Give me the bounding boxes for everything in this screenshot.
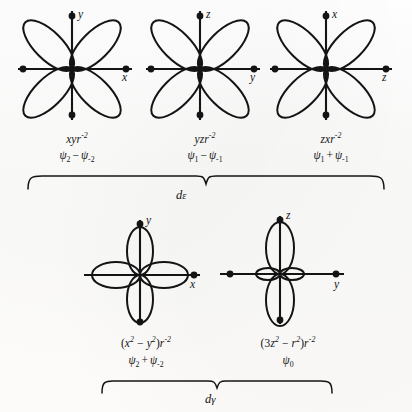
- axis-label-horizontal: x: [190, 278, 195, 290]
- formula-exponent: -2: [81, 131, 88, 140]
- axis-endpoint-dot: [277, 317, 284, 324]
- axis-label-vertical: y: [146, 214, 151, 226]
- psi-subscript: 0: [290, 360, 294, 369]
- axis-endpoint-dot: [272, 66, 279, 73]
- brace-label-de: dε: [176, 188, 186, 203]
- orbital-d-xy: y x: [14, 6, 142, 124]
- caption-psi-d-yz: ψ1−ψ-1: [150, 150, 260, 164]
- psi-right-subscript: -2: [157, 360, 164, 369]
- brace-de: [24, 170, 388, 194]
- orbital-d-x2-y2: y x: [82, 218, 210, 328]
- axis-label-horizontal: y: [250, 71, 255, 83]
- orbital-d-zx: x z: [266, 6, 398, 124]
- formula-base: zxr: [320, 133, 334, 145]
- formula-operator: −: [279, 337, 292, 349]
- brace-path: [102, 381, 332, 393]
- caption-psi-d-xy: ψ2−ψ-2: [22, 150, 132, 164]
- axis-label-horizontal: x: [122, 71, 127, 83]
- formula-exponent: -2: [209, 131, 216, 140]
- caption-formula-d-z2: (3z2−r2)r-2: [226, 336, 350, 349]
- brace-label-dgamma: dγ: [205, 392, 216, 407]
- brace-label-subscript: ε: [182, 190, 186, 201]
- axis-label-vertical: z: [286, 209, 290, 221]
- formula-exponent: -2: [335, 131, 342, 140]
- axis-label-horizontal: y: [334, 278, 339, 290]
- formula-base: yzr: [194, 133, 208, 145]
- axis-label-vertical: z: [206, 8, 210, 20]
- caption-psi-d-x2-y2: ψ2+ψ-2: [86, 355, 206, 369]
- orbital-d-z2: z y: [218, 212, 354, 328]
- caption-psi-d-z2: ψ0: [226, 355, 350, 369]
- psi-operator: +: [324, 149, 335, 161]
- psi-right-subscript: -1: [216, 155, 223, 164]
- axis-endpoint-dot: [197, 13, 204, 20]
- formula-suffix-exponent: -2: [164, 335, 171, 344]
- axis-label-horizontal: z: [382, 71, 386, 83]
- formula-base: xyr: [66, 133, 81, 145]
- psi-right-subscript: -2: [88, 155, 95, 164]
- psi-operator: −: [70, 149, 81, 161]
- psi-right-subscript: -1: [342, 155, 349, 164]
- axis-label-vertical: y: [78, 8, 83, 20]
- caption-formula-d-zx: zxr-2: [276, 132, 386, 145]
- caption-formula-d-x2-y2: (x2−y2)r-2: [86, 336, 206, 349]
- caption-formula-d-yz: yzr-2: [150, 132, 260, 145]
- psi-operator: −: [198, 149, 209, 161]
- psi-operator: +: [139, 354, 150, 366]
- axis-endpoint-dot: [69, 112, 76, 119]
- brace-dgamma: [98, 374, 336, 398]
- axis-label-vertical: x: [332, 8, 337, 20]
- axis-endpoint-dot: [69, 13, 76, 20]
- orbital-d-yz: z y: [142, 6, 270, 124]
- caption-formula-d-xy: xyr-2: [22, 132, 132, 145]
- axis-endpoint-dot: [197, 112, 204, 119]
- brace-path: [28, 176, 384, 189]
- brace-label-subscript: γ: [211, 393, 215, 405]
- orbital-figure: y x xyr-2 ψ2−ψ-2 z: [0, 0, 412, 412]
- axis-endpoint-dot: [20, 66, 27, 73]
- axis-endpoint-dot: [333, 271, 340, 278]
- axis-endpoint-dot: [323, 112, 330, 119]
- axis-endpoint-dot: [227, 271, 234, 278]
- caption-psi-d-zx: ψ1+ψ-1: [276, 150, 386, 164]
- axis-endpoint-dot: [148, 66, 155, 73]
- axis-endpoint-dot: [323, 13, 330, 20]
- formula-suffix-exponent: -2: [309, 335, 316, 344]
- formula-operator: −: [134, 337, 147, 349]
